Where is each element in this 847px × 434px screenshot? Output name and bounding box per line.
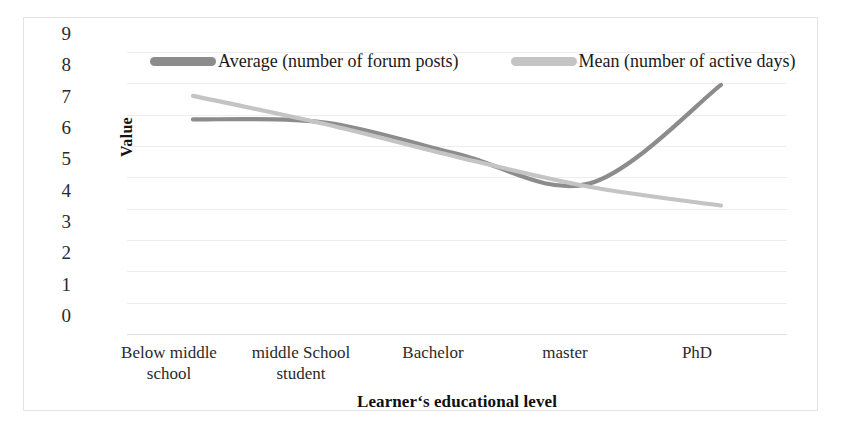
y-tick-label-5: 5 (45, 149, 71, 168)
plot-area (127, 52, 787, 334)
legend-entry-mean[interactable]: Mean (number of active days) (511, 51, 796, 71)
legend-entry-average[interactable]: Average (number of forum posts) (150, 51, 459, 71)
x-tick-label-bachelor: Bachelor (358, 342, 508, 363)
x-tick-label-line: Below middle (94, 342, 244, 363)
y-tick-label-9: 9 (45, 24, 71, 43)
series-line-average (193, 85, 721, 186)
legend-label-mean: Mean (number of active days) (579, 51, 796, 71)
y-tick-label-3: 3 (45, 212, 71, 231)
x-tick-label-line: PhD (622, 342, 772, 363)
x-tick-label-phd: PhD (622, 342, 772, 363)
y-tick-label-8: 8 (45, 55, 71, 74)
gridline-0 (127, 334, 787, 335)
x-tick-label-line: Bachelor (358, 342, 508, 363)
x-tick-label-line: school (94, 363, 244, 384)
y-tick-label-6: 6 (45, 118, 71, 137)
x-tick-label-line: student (226, 363, 376, 384)
y-tick-label-4: 4 (45, 181, 71, 200)
x-tick-label-line: middle School (226, 342, 376, 363)
chart-figure: 9876543210 Value Average (number of foru… (0, 0, 847, 434)
x-tick-label-line: master (490, 342, 640, 363)
legend-label-average: Average (number of forum posts) (218, 51, 459, 71)
x-tick-label-middle-school-student: middle Schoolstudent (226, 342, 376, 384)
y-tick-label-2: 2 (45, 243, 71, 262)
series-container (127, 52, 787, 334)
y-tick-label-0: 0 (45, 306, 71, 325)
legend-swatch-mean (511, 57, 577, 66)
chart-frame: 9876543210 Value Average (number of foru… (23, 17, 818, 411)
x-tick-label-master: master (490, 342, 640, 363)
series-line-mean (193, 96, 721, 206)
y-tick-label-7: 7 (45, 87, 71, 106)
x-axis-title: Learner‘s educational level (127, 392, 787, 412)
legend-swatch-average (150, 57, 216, 66)
x-tick-label-below-middle-school: Below middleschool (94, 342, 244, 384)
chart-legend: Average (number of forum posts) Mean (nu… (150, 51, 796, 71)
y-tick-label-1: 1 (45, 275, 71, 294)
